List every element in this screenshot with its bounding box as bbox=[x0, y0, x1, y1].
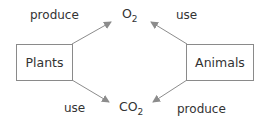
node-plants: Plants bbox=[16, 44, 73, 81]
label-plants-use-co2: use bbox=[64, 101, 85, 115]
arrow-plants-to-co2 bbox=[72, 80, 109, 102]
animals-label: Animals bbox=[195, 55, 245, 70]
co2-base: CO bbox=[119, 99, 138, 114]
o2-subscript: 2 bbox=[132, 14, 138, 24]
label-plants-produce-o2: produce bbox=[30, 8, 79, 22]
co2-subscript: 2 bbox=[138, 107, 144, 117]
node-o2: O2 bbox=[122, 7, 138, 26]
plants-label: Plants bbox=[25, 55, 63, 70]
label-animals-use-o2: use bbox=[176, 8, 197, 22]
arrow-animals-to-co2 bbox=[153, 80, 187, 102]
label-animals-produce-co2: produce bbox=[177, 102, 226, 116]
arrow-plants-to-o2 bbox=[72, 22, 111, 44]
node-co2: CO2 bbox=[119, 100, 143, 119]
node-animals: Animals bbox=[186, 44, 254, 81]
o2-base: O bbox=[122, 6, 132, 21]
arrow-animals-to-o2 bbox=[151, 22, 187, 44]
